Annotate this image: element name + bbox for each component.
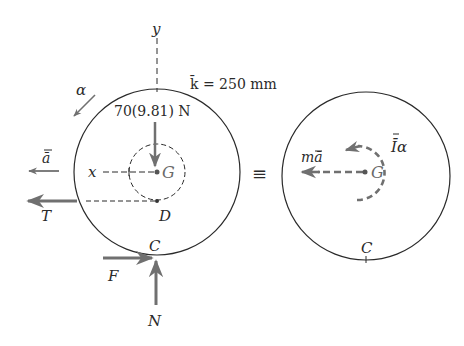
point-d-label: D: [158, 207, 171, 225]
alpha-label: α: [76, 81, 86, 99]
free-body-diagram: y x G 70(9.81) N k̄ = 250 mm α ā T D C: [28, 20, 277, 330]
inertia-moment-label: Īα: [390, 138, 407, 156]
x-axis-label: x: [88, 163, 97, 181]
kinetic-diagram: mā G Īα C: [282, 92, 450, 263]
radius-gyration-label: k̄ = 250 mm: [190, 75, 277, 92]
center-g-dot: [155, 170, 160, 175]
point-d-dot: [155, 199, 159, 203]
friction-label: F: [107, 267, 119, 285]
equivalence-symbol: ≡: [252, 163, 267, 184]
kd-center-g-label: G: [371, 163, 384, 182]
kd-contact-c-label: C: [361, 239, 373, 257]
kd-wheel-outline: [282, 92, 450, 260]
inertia-moment-arrowhead: [346, 146, 360, 150]
tension-label: T: [41, 207, 52, 225]
normal-label: N: [147, 312, 162, 330]
acceleration-label: ā: [42, 150, 50, 166]
contact-c-label: C: [149, 237, 161, 255]
diagram-canvas: y x G 70(9.81) N k̄ = 250 mm α ā T D C: [0, 0, 464, 346]
kd-center-g-dot: [363, 170, 368, 175]
center-g-label: G: [162, 163, 175, 182]
y-axis-label: y: [151, 20, 161, 38]
weight-label: 70(9.81) N: [114, 103, 191, 119]
